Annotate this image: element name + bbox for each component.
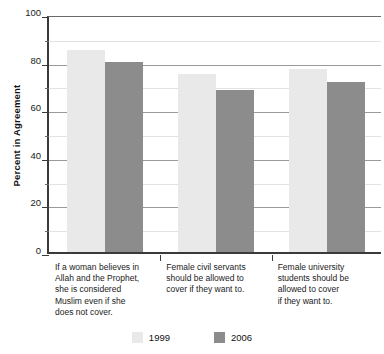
x-axis-category-labels: If a woman believes inAllah and the Prop… — [47, 262, 381, 324]
legend-label-1999: 1999 — [149, 332, 170, 343]
legend-item-1999: 1999 — [132, 332, 170, 343]
cat-label-line: if they want to. — [278, 296, 333, 306]
x-axis-separator — [272, 255, 273, 261]
category-label-3: Female universitystudents should beallow… — [278, 262, 379, 307]
y-tick-major — [42, 112, 49, 113]
plot-area: 020406080100 — [47, 16, 381, 254]
bar-1999 — [289, 69, 327, 252]
y-tick-label: 60 — [15, 107, 41, 108]
legend-label-2006: 2006 — [231, 332, 252, 343]
cat-label-line: If a woman believes in — [55, 262, 139, 272]
bar-2006 — [216, 90, 254, 252]
bar-group — [272, 17, 383, 252]
bar-2006 — [105, 62, 143, 252]
bar-chart-figure: Percent in Agreement 020406080100 If a w… — [0, 0, 384, 354]
y-tick-label: 80 — [15, 60, 41, 61]
legend-item-2006: 2006 — [214, 332, 252, 343]
bar-group — [160, 17, 271, 252]
bar-group — [49, 17, 160, 252]
legend-swatch-2006 — [214, 332, 225, 343]
y-tick-label: 40 — [15, 155, 41, 156]
cat-label-line: allowed to cover — [278, 284, 339, 294]
cat-label-line: Muslim even if she — [55, 296, 125, 306]
chart-legend: 1999 2006 — [0, 332, 384, 343]
cat-label-line: does not cover. — [55, 307, 113, 317]
bar-1999 — [67, 50, 105, 252]
cat-label-line: Allah and the Prophet, — [55, 273, 139, 283]
category-label-2: Female civil servantsshould be allowed t… — [166, 262, 267, 296]
category-label-1: If a woman believes inAllah and the Prop… — [55, 262, 156, 318]
x-axis-separator — [160, 255, 161, 261]
cat-label-line: Female university — [278, 262, 345, 272]
y-tick-major — [42, 207, 49, 208]
y-tick-label: 100 — [15, 12, 41, 13]
cat-label-line: should be allowed to — [166, 273, 244, 283]
y-tick-label: 0 — [15, 250, 41, 251]
y-tick-label: 20 — [15, 202, 41, 203]
bar-1999 — [178, 74, 216, 253]
cat-label-line: Female civil servants — [166, 262, 245, 272]
y-tick-major — [42, 65, 49, 66]
cat-label-line: cover if they want to. — [166, 284, 244, 294]
bar-2006 — [327, 82, 365, 252]
cat-label-line: students should be — [278, 273, 349, 283]
y-axis-title: Percent in Agreement — [11, 51, 22, 221]
legend-swatch-1999 — [132, 332, 143, 343]
y-tick-major — [42, 255, 49, 256]
bars-layer — [49, 17, 381, 252]
y-tick-major — [42, 160, 49, 161]
cat-label-line: she is considered — [55, 284, 121, 294]
y-tick-major — [42, 17, 49, 18]
